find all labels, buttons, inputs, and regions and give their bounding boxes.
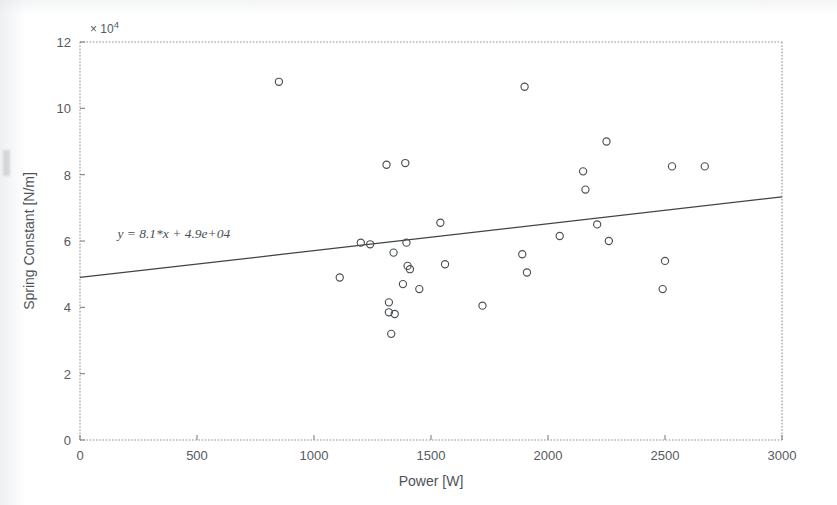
data-point-marker — [441, 261, 448, 268]
data-point-marker — [523, 269, 530, 276]
x-tick-label: 2000 — [534, 448, 563, 463]
x-tick-label: 3000 — [768, 448, 797, 463]
x-tick-label: 500 — [186, 448, 208, 463]
data-point-marker — [582, 186, 589, 193]
data-point-marker — [275, 78, 282, 85]
y-tick-label: 4 — [64, 300, 71, 315]
data-point-marker — [519, 251, 526, 258]
plot-canvas: 050010001500200025003000 024681012 × 104… — [0, 0, 837, 505]
data-point-marker — [521, 83, 528, 90]
data-point-marker — [659, 285, 666, 292]
data-points — [275, 78, 708, 337]
data-point-marker — [399, 281, 406, 288]
data-point-marker — [661, 257, 668, 264]
data-point-marker — [402, 159, 409, 166]
axes — [80, 42, 782, 440]
data-point-marker — [336, 274, 343, 281]
data-point-marker — [385, 299, 392, 306]
y-tick-label: 2 — [64, 367, 71, 382]
data-point-marker — [383, 161, 390, 168]
y-axis-ticks: 024681012 — [57, 35, 85, 448]
x-axis-ticks: 050010001500200025003000 — [76, 435, 796, 463]
data-point-marker — [580, 168, 587, 175]
y-tick-label: 6 — [64, 234, 71, 249]
equation-text: y = 8.1*x + 4.9e+04 — [115, 226, 230, 241]
data-point-marker — [668, 163, 675, 170]
data-point-marker — [701, 163, 708, 170]
data-point-marker — [605, 237, 612, 244]
x-axis-title: Power [W] — [399, 473, 464, 489]
data-point-marker — [437, 219, 444, 226]
y-axis-multiplier-exponent: 4 — [114, 19, 119, 30]
y-tick-label: 8 — [64, 168, 71, 183]
x-tick-label: 2500 — [651, 448, 680, 463]
y-axis-multiplier-base: × 10 — [90, 22, 114, 36]
y-axis-title: Spring Constant [N/m] — [21, 172, 37, 310]
data-point-marker — [594, 221, 601, 228]
y-tick-label: 0 — [64, 433, 71, 448]
y-tick-label: 10 — [57, 101, 71, 116]
scatter-plot-figure: 050010001500200025003000 024681012 × 104… — [0, 0, 837, 505]
equation-annotation: y = 8.1*x + 4.9e+04 — [115, 226, 230, 241]
x-tick-label: 0 — [76, 448, 83, 463]
data-point-marker — [416, 285, 423, 292]
svg-text:× 104: × 104 — [90, 19, 119, 36]
data-point-marker — [603, 138, 610, 145]
x-tick-label: 1500 — [417, 448, 446, 463]
data-point-marker — [479, 302, 486, 309]
y-axis-multiplier: × 104 — [90, 19, 119, 36]
data-point-marker — [556, 232, 563, 239]
data-point-marker — [388, 330, 395, 337]
data-point-marker — [390, 249, 397, 256]
x-tick-label: 1000 — [300, 448, 329, 463]
y-tick-label: 12 — [57, 35, 71, 50]
